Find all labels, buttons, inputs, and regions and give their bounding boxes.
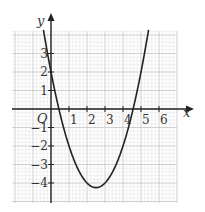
x-axis-label: x [183,105,191,120]
quadratic-graph: 123456321−1−2−3−4 x y O [0,0,205,212]
y-tick-label: 1 [40,84,48,98]
y-tick-label: −3 [30,158,48,172]
y-axis-label: y [36,13,45,28]
y-tick-label: 3 [40,47,48,61]
axes [12,13,194,203]
y-tick-label: 2 [40,65,48,79]
y-tick-label: −4 [30,176,48,190]
x-tick-label: 2 [88,113,96,127]
x-tick-label: 6 [160,113,168,127]
x-tick-label: 3 [106,113,114,127]
y-tick-label: −2 [30,139,48,153]
x-tick-label: 1 [70,113,78,127]
x-tick-label: 4 [124,113,132,127]
origin-label: O [37,111,48,126]
x-tick-label: 5 [142,113,150,127]
